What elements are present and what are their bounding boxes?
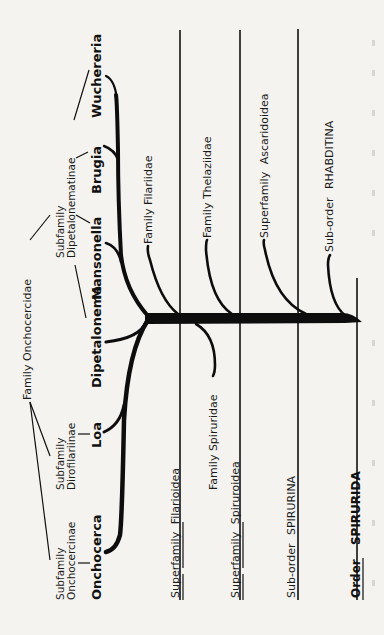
label-superfamily-spiruroidea: Superfamily Spiruroidea <box>229 461 242 598</box>
label-suborder-rhabditina: Sub-order RHABDITINA <box>323 120 336 252</box>
branch-onchocerca <box>106 320 148 552</box>
figure-page: Family Onchocercidae Subfamily Onchocerc… <box>0 0 384 635</box>
bracket-dipetalonematinae-dipetalonema <box>75 265 86 318</box>
label-subfamily-onchocercinae-2: Onchocercinae <box>65 522 77 600</box>
svg-text:Superfamily Spiruroidea: Superfamily Spiruroidea <box>229 461 242 598</box>
label-genus-brugia: Brugia <box>89 146 104 194</box>
label-genus-dipetalonema: Dipetalonema <box>89 286 104 388</box>
order-name: SPIRURIDA <box>349 470 363 545</box>
label-genus-onchocerca: Onchocerca <box>89 514 104 600</box>
svg-text:Sub-order RHABDITINA: Sub-order RHABDITINA <box>323 120 336 252</box>
bracket-dipetalonematinae-brugia <box>76 152 88 158</box>
branch-ascaridoidea <box>264 240 306 314</box>
svg-text:Order SPIRURIDA: Order SPIRURIDA <box>349 470 363 598</box>
superfamily-name: Ascaridoidea <box>258 93 271 164</box>
label-order-spirurida: Order SPIRURIDA <box>349 470 363 598</box>
superfamily-prefix: Superfamily <box>169 531 182 598</box>
label-superfamily-ascaridoidea: Superfamily Ascaridoidea <box>258 93 271 238</box>
superfamily-prefix: Superfamily <box>229 531 242 598</box>
label-suborder-spirurina: Sub-order SPIRURINA <box>285 475 298 598</box>
label-subfamily-dirofilariinae-2: Dirofilariinae <box>65 423 77 490</box>
branch-loa <box>104 405 124 432</box>
label-genus-mansonella: Mansonella <box>89 217 104 300</box>
svg-text:Sub-order SPIRURINA: Sub-order SPIRURINA <box>285 475 298 598</box>
label-family-onchocercidae: Family Onchocercidae <box>21 279 34 400</box>
label-family-thelaziidae: Family Thelaziidae <box>201 136 214 238</box>
svg-text:Superfamily Filarioidea: Superfamily Filarioidea <box>169 468 182 598</box>
superfamily-prefix: Superfamily <box>258 171 271 238</box>
superfamily-name: Filarioidea <box>169 468 182 524</box>
branch-thelaziidae <box>206 240 232 314</box>
suborder-name: SPIRURINA <box>285 475 298 535</box>
bleed-through-text <box>372 40 375 586</box>
bracket-dipetalonematinae-wuchereria <box>74 70 89 120</box>
superfamily-name: Spiruroidea <box>229 461 242 524</box>
bracket-onchocercidae-dipetalonematinae <box>30 215 50 240</box>
label-subfamily-dipetalonematinae-2: Dipetalonematinae <box>65 158 77 258</box>
order-prefix: Order <box>349 559 363 598</box>
label-family-filariidae: Family Filariidae <box>142 155 155 244</box>
branch-spiruridae <box>196 324 215 376</box>
branch-filariidae <box>148 246 178 314</box>
bracket-dipetalonematinae-mansonella <box>76 215 90 223</box>
label-family-spiruridae: Family Spiruridae <box>207 394 220 490</box>
bracket-onchocercidae-onchocercinae <box>30 402 50 560</box>
suborder-prefix: Sub-order <box>323 197 336 252</box>
suborder-name: RHABDITINA <box>323 120 336 189</box>
taxonomy-tree-diagram: Family Onchocercidae Subfamily Onchocerc… <box>0 0 384 635</box>
label-genus-loa: Loa <box>89 422 104 448</box>
label-superfamily-filarioidea: Superfamily Filarioidea <box>169 468 182 598</box>
branch-brugia <box>104 146 118 160</box>
label-genus-wuchereria: Wuchereria <box>89 34 104 118</box>
svg-text:Superfamily Ascaridoidea: Superfamily Ascaridoidea <box>258 93 271 238</box>
rank-underlines <box>183 522 363 600</box>
suborder-prefix: Sub-order <box>285 543 298 598</box>
branch-rhabditina <box>328 255 346 316</box>
